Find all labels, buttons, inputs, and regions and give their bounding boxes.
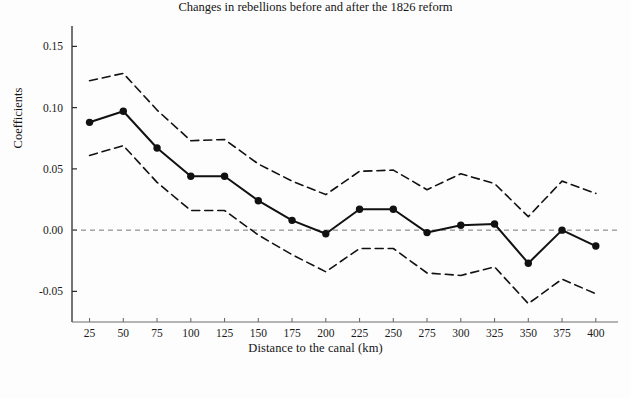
data-point-marker xyxy=(356,206,363,213)
x-axis-tick-label: 225 xyxy=(351,327,369,339)
lower-confidence-band xyxy=(90,146,596,304)
x-axis-title: Distance to the canal (km) xyxy=(0,341,631,356)
x-axis-tick-label: 50 xyxy=(118,327,130,339)
y-axis-title: Coefficients xyxy=(11,88,25,149)
data-point-marker xyxy=(525,260,532,267)
x-axis-tick-label: 375 xyxy=(553,327,571,339)
data-point-marker xyxy=(86,119,93,126)
data-point-marker xyxy=(255,197,262,204)
x-axis-tick-label: 300 xyxy=(452,327,470,339)
data-point-marker xyxy=(423,229,430,236)
coefficient-line xyxy=(90,111,596,263)
y-axis-tick-label: 0.05 xyxy=(43,163,63,175)
figure-container: 0.150.100.050.00-0.052550751001251501752… xyxy=(0,0,631,399)
x-axis-tick-label: 250 xyxy=(385,327,403,339)
data-point-marker xyxy=(491,220,498,227)
x-axis-tick-label: 175 xyxy=(283,327,301,339)
x-axis-tick-label: 200 xyxy=(317,327,335,339)
data-point-marker xyxy=(592,242,599,249)
x-axis-tick-label: 150 xyxy=(250,327,268,339)
data-point-marker xyxy=(322,230,329,237)
data-point-marker xyxy=(558,226,565,233)
y-axis-title-wrapper: Coefficients xyxy=(8,48,28,188)
x-axis-tick-label: 400 xyxy=(587,327,605,339)
y-axis-tick-label: 0.15 xyxy=(43,40,63,52)
x-axis-tick-label: 100 xyxy=(182,327,200,339)
data-point-marker xyxy=(457,222,464,229)
x-axis-tick-label: 350 xyxy=(520,327,538,339)
data-point-marker xyxy=(120,108,127,115)
coefficient-plot: 0.150.100.050.00-0.052550751001251501752… xyxy=(0,0,631,399)
x-axis-tick-label: 25 xyxy=(84,327,96,339)
data-point-marker xyxy=(153,144,160,151)
data-point-marker xyxy=(221,173,228,180)
data-point-marker xyxy=(288,217,295,224)
x-axis-tick-label: 125 xyxy=(216,327,234,339)
data-point-marker xyxy=(390,206,397,213)
y-axis-tick-label: -0.05 xyxy=(39,285,63,297)
x-axis-tick-label: 75 xyxy=(151,327,163,339)
x-axis-tick-label: 275 xyxy=(418,327,436,339)
upper-confidence-band xyxy=(90,73,596,216)
y-axis-tick-label: 0.10 xyxy=(43,102,63,114)
data-point-marker xyxy=(187,173,194,180)
y-axis-tick-label: 0.00 xyxy=(43,224,63,236)
x-axis-tick-label: 325 xyxy=(486,327,504,339)
